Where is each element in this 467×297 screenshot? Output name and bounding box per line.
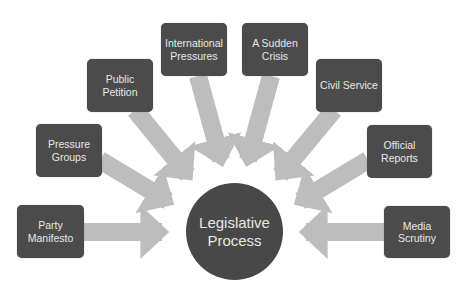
source-box-official-reports: OfficialReports [367,125,432,178]
arrow-public-petition [135,110,188,175]
source-label-line1: A Sudden [252,37,298,49]
source-label-line1: Pressure [48,138,90,150]
center-node-legislative-process: LegislativeProcess [186,183,283,280]
center-label-line1: Legislative [199,214,270,231]
source-box-civil-service: Civil Service [316,59,382,112]
source-label-line1: Civil Service [320,79,378,91]
source-label-line1: Media [403,220,432,232]
source-label-line2: Groups [52,151,86,163]
source-label-line2: Reports [381,152,418,164]
source-label-line2: Manifesto [28,232,74,244]
source-label-line2: Petition [102,86,137,98]
source-label-line2: Scrutiny [398,232,436,244]
arrow-civil-service [280,110,334,175]
arrow-official-reports [300,160,368,201]
arrow-a-sudden-crisis [248,76,271,160]
source-label-line2: Crisis [262,50,288,62]
arrow-pressure-groups [100,160,168,201]
source-label-line1: Party [38,219,63,231]
source-label-line1: Official [384,139,416,151]
center-label-line2: Process [207,232,261,249]
source-box-international-pressures: InternationalPressures [161,23,227,76]
source-label-line1: Public [106,73,135,85]
source-box-a-sudden-crisis: A SuddenCrisis [242,23,308,76]
source-box-party-manifesto: PartyManifesto [17,205,84,258]
source-box-pressure-groups: PressureGroups [36,124,102,177]
source-box-media-scrutiny: MediaScrutiny [384,206,450,258]
source-label-line1: International [165,37,223,49]
source-box-public-petition: PublicPetition [87,59,153,112]
arrow-international-pressures [198,76,221,160]
source-label-line2: Pressures [170,50,217,62]
